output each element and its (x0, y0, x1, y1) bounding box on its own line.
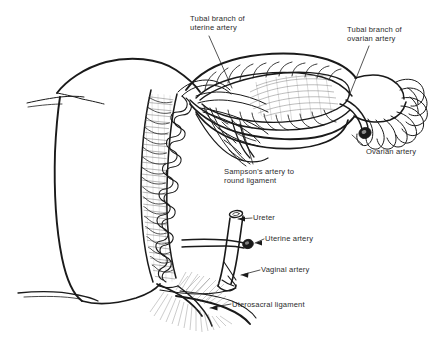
label-ureter: Ureter (253, 213, 275, 222)
label-ovarian-artery: Ovarian artery (366, 147, 416, 156)
label-vaginal-artery: Vaginal artery (261, 265, 309, 274)
label-tubal-branch-uterine-artery: Tubal branch of uterine artery (190, 14, 245, 33)
anatomical-figure: Tubal branch of uterine artery Tubal bra… (0, 0, 445, 353)
arrow-vaginal-artery (241, 273, 249, 278)
arrow-uterosacral (210, 305, 218, 311)
label-uterosacral-ligament: Uterosacral ligament (232, 300, 305, 309)
ovarian-artery-stump (340, 100, 373, 140)
label-sampsons-artery: Sampson's artery to round ligament (224, 167, 294, 186)
label-tubal-branch-ovarian-artery: Tubal branch of ovarian artery (347, 25, 402, 44)
uterine-wall (141, 90, 178, 288)
leader-tubal-ovarian (349, 46, 369, 96)
anatomy-illustration (0, 0, 445, 353)
uterine-artery-stump (182, 238, 254, 250)
label-uterine-artery: Uterine artery (265, 234, 313, 243)
